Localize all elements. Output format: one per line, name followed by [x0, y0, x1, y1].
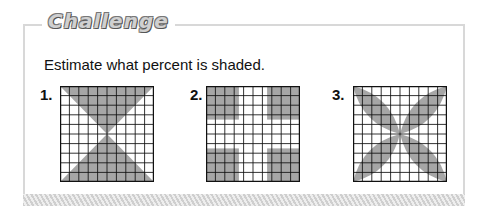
problem-number-3: 3.: [332, 86, 345, 103]
grid-figure-3: [353, 86, 447, 182]
problem-number-2: 2.: [190, 86, 203, 103]
decorative-stripe: [23, 194, 465, 206]
problem-number-1: 1.: [40, 86, 53, 103]
challenge-title: Challenge: [42, 9, 175, 33]
grid-figure-1: [60, 86, 154, 182]
prompt-text: Estimate what percent is shaded.: [44, 56, 265, 73]
grid-figure-2: [206, 86, 300, 182]
